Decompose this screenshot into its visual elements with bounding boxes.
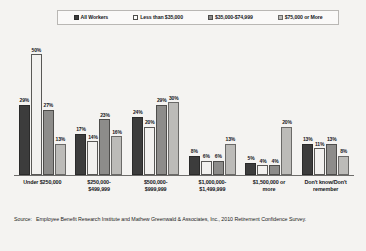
bar-item: 20% [281,30,292,175]
bar-item: 6% [213,30,224,175]
bar-value-label: 29% [20,98,30,103]
legend-item-less-than-35k: Less than $35,000 [133,15,183,20]
bar-value-label: 20% [282,120,292,125]
legend-item-all-workers: All Workers [74,15,109,20]
bar-value-label: 13% [303,137,313,142]
bar-item: 50% [31,30,42,175]
bar-item: 11% [314,30,325,175]
bar [338,156,349,175]
category-label: $250,000-$499,999 [71,179,128,194]
bar-value-label: 23% [100,113,110,118]
bar-item: 16% [111,30,122,175]
bar-value-label: 6% [203,154,210,159]
bar [269,165,280,175]
bar-value-label: 17% [76,127,86,132]
legend-item-75k-or-more: $75,000 or More [278,15,323,20]
bar-item: 13% [55,30,66,175]
bar-value-label: 8% [191,149,198,154]
bar-item: 29% [156,30,167,175]
bar-value-label: 6% [215,154,222,159]
bar-value-label: 13% [327,137,337,142]
bar [132,117,143,175]
bar [75,134,86,175]
legend-swatch-less-than-35k [133,15,138,20]
bar [31,54,42,175]
bar-value-label: 27% [44,103,54,108]
source-text: Employee Benefit Research Institute and … [36,216,306,222]
bar-item: 13% [225,30,236,175]
bar-item: 13% [326,30,337,175]
bar-value-label: 8% [340,149,347,154]
bar-value-label: 13% [226,137,236,142]
bar [144,127,155,175]
legend-swatch-35k-74k [208,15,213,20]
bar-item: 30% [168,30,179,175]
bar-value-label: 29% [157,98,167,103]
bar-value-label: 5% [248,156,255,161]
bar-item: 17% [75,30,86,175]
bar-value-label: 13% [56,137,66,142]
bar [225,144,236,175]
category-label: Don't know/Don'tremember [297,179,354,194]
legend-item-35k-74k: $35,000-$74,999 [208,15,253,20]
legend-label-less-than-35k: Less than $35,000 [140,15,183,20]
bar-item: 27% [43,30,54,175]
bar-group: 24%20%29%30% [127,30,184,175]
plot-area: 29%50%27%13%17%14%23%16%24%20%29%30%8%6%… [14,30,354,176]
bar [168,102,179,175]
bar [245,163,256,175]
bar [189,156,200,175]
legend-swatch-75k-or-more [278,15,283,20]
bar-item: 5% [245,30,256,175]
legend-swatch-all-workers [74,15,79,20]
x-axis-line [14,175,354,176]
bar-value-label: 11% [315,142,324,147]
bar-group: 17%14%23%16% [71,30,128,175]
legend-label-35k-74k: $35,000-$74,999 [215,15,253,20]
bar-value-label: 50% [32,48,42,53]
bar-value-label: 20% [145,120,155,125]
bar-value-label: 24% [133,110,143,115]
bar-value-label: 4% [272,159,279,164]
source-note: Source:Employee Benefit Research Institu… [14,215,352,224]
bar-group: 8%6%6%13% [184,30,241,175]
bar-item: 14% [87,30,98,175]
bar [257,165,268,175]
bar-value-label: 30% [169,96,179,101]
bar-item: 13% [302,30,313,175]
bar [55,144,66,175]
category-label: $500,000-$999,999 [127,179,184,194]
bar [99,119,110,175]
source-label: Source: [14,216,32,222]
category-label: Under $250,000 [14,179,71,186]
legend-label-75k-or-more: $75,000 or More [285,15,323,20]
bar-item: 24% [132,30,143,175]
category-label: $1,000,000-$1,499,999 [184,179,241,194]
retirement-savings-goal-chart: All Workers Less than $35,000 $35,000-$7… [0,0,366,251]
bar-value-label: 14% [88,135,98,140]
bar-group: 5%4%4%20% [241,30,298,175]
bar [156,105,167,175]
bar-item: 4% [257,30,268,175]
category-label: $1,500,000 ormore [241,179,298,194]
bar [19,105,30,175]
bar-item: 20% [144,30,155,175]
bar-value-label: 4% [260,159,267,164]
bar [213,161,224,176]
bar [111,136,122,175]
bar-item: 8% [338,30,349,175]
bar [201,161,212,176]
bar [43,110,54,175]
bar-group: 13%11%13%8% [297,30,354,175]
bar-value-label: 16% [112,130,122,135]
bar [326,144,337,175]
bar-item: 8% [189,30,200,175]
legend-label-all-workers: All Workers [81,15,109,20]
bar [281,127,292,175]
bar-group: 29%50%27%13% [14,30,71,175]
bar-item: 4% [269,30,280,175]
bar [302,144,313,175]
bar-item: 29% [19,30,30,175]
category-axis-labels: Under $250,000$250,000-$499,999$500,000-… [14,179,354,201]
bar [87,141,98,175]
